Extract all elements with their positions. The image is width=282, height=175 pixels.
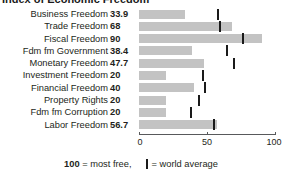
bar-business-freedom bbox=[139, 10, 185, 19]
row-value-fdm-fm-government: 38.4 bbox=[110, 45, 135, 57]
legend-world-average-text: = world average bbox=[152, 159, 218, 169]
row-plot-labor-freedom bbox=[139, 119, 276, 131]
row-value-business-freedom: 33.9 bbox=[110, 8, 135, 20]
world-average-mark-fiscal-freedom bbox=[242, 33, 244, 44]
bar-fdm-fm-corruption bbox=[139, 108, 166, 117]
row-plot-monetary-freedom bbox=[139, 57, 276, 69]
chart-legend: 100 = most free, = world average bbox=[0, 156, 282, 172]
world-average-mark-trade-freedom bbox=[219, 21, 221, 32]
x-axis: 0 50 100 bbox=[139, 134, 276, 152]
legend-most-free-text: = most free, bbox=[80, 159, 132, 169]
table-row: Property Rights 20 bbox=[0, 94, 282, 106]
bar-monetary-freedom bbox=[139, 59, 204, 68]
bar-fdm-fm-government bbox=[139, 46, 192, 55]
row-label-trade-freedom: Trade Freedom bbox=[0, 20, 108, 32]
row-plot-fiscal-freedom bbox=[139, 33, 276, 45]
table-row: Trade Freedom 68 bbox=[0, 20, 282, 32]
table-row: Investment Freedom 20 bbox=[0, 69, 282, 81]
row-value-property-rights: 20 bbox=[110, 94, 135, 106]
row-value-monetary-freedom: 47.7 bbox=[110, 57, 135, 69]
x-axis-label-100: 100 bbox=[266, 137, 281, 148]
row-label-business-freedom: Business Freedom bbox=[0, 8, 108, 20]
x-axis-tick-0 bbox=[139, 132, 140, 136]
bar-labor-freedom bbox=[139, 120, 217, 129]
bar-financial-freedom bbox=[139, 83, 194, 92]
table-row: Fdm fm Government 38.4 bbox=[0, 45, 282, 57]
row-label-property-rights: Property Rights bbox=[0, 94, 108, 106]
row-plot-financial-freedom bbox=[139, 82, 276, 94]
table-row: Fiscal Freedom 90 bbox=[0, 33, 282, 45]
row-plot-trade-freedom bbox=[139, 20, 276, 32]
table-row: Fdm fm Corruption 20 bbox=[0, 106, 282, 118]
x-axis-tick-100 bbox=[275, 132, 276, 136]
table-row: Labor Freedom 56.7 bbox=[0, 119, 282, 131]
world-average-mark-business-freedom bbox=[217, 9, 219, 20]
page-title: Index of Economic Freedom bbox=[0, 0, 282, 5]
chart-title-cropped: Index of Economic Freedom bbox=[0, 0, 282, 6]
bar-property-rights bbox=[139, 96, 166, 105]
world-average-mark-investment-freedom bbox=[202, 70, 204, 81]
row-value-financial-freedom: 40 bbox=[110, 82, 135, 94]
row-label-financial-freedom: Financial Freedom bbox=[0, 82, 108, 94]
row-plot-business-freedom bbox=[139, 8, 276, 20]
table-row: Monetary Freedom 47.7 bbox=[0, 57, 282, 69]
row-label-investment-freedom: Investment Freedom bbox=[0, 69, 108, 81]
row-value-fdm-fm-corruption: 20 bbox=[110, 106, 135, 118]
bar-investment-freedom bbox=[139, 71, 166, 80]
row-plot-fdm-fm-government bbox=[139, 45, 276, 57]
table-row: Business Freedom 33.9 bbox=[0, 8, 282, 20]
row-label-fdm-fm-government: Fdm fm Government bbox=[0, 45, 108, 57]
table-row: Financial Freedom 40 bbox=[0, 82, 282, 94]
row-plot-property-rights bbox=[139, 94, 276, 106]
economic-freedom-chart: Index of Economic Freedom Business Freed… bbox=[0, 0, 282, 175]
bar-rows: Business Freedom 33.9 Trade Freedom 68 F… bbox=[0, 8, 282, 131]
legend-max-value: 100 bbox=[64, 159, 80, 169]
row-label-fdm-fm-corruption: Fdm fm Corruption bbox=[0, 106, 108, 118]
row-plot-investment-freedom bbox=[139, 69, 276, 81]
row-plot-fdm-fm-corruption bbox=[139, 106, 276, 118]
row-label-labor-freedom: Labor Freedom bbox=[0, 119, 108, 131]
world-average-mark-labor-freedom bbox=[213, 119, 215, 130]
row-label-monetary-freedom: Monetary Freedom bbox=[0, 57, 108, 69]
world-average-mark-monetary-freedom bbox=[233, 58, 235, 69]
row-value-labor-freedom: 56.7 bbox=[110, 119, 135, 131]
row-value-fiscal-freedom: 90 bbox=[110, 33, 135, 45]
x-axis-label-0: 0 bbox=[137, 137, 142, 148]
world-average-mark-fdm-fm-government bbox=[226, 45, 228, 56]
world-average-mark-fdm-fm-corruption bbox=[190, 107, 192, 118]
row-value-trade-freedom: 68 bbox=[110, 20, 135, 32]
world-average-mark-financial-freedom bbox=[204, 82, 206, 93]
x-axis-label-50: 50 bbox=[202, 137, 212, 148]
world-average-mark-icon bbox=[146, 159, 148, 169]
row-value-investment-freedom: 20 bbox=[110, 69, 135, 81]
row-label-fiscal-freedom: Fiscal Freedom bbox=[0, 33, 108, 45]
x-axis-tick-50 bbox=[207, 132, 208, 136]
world-average-mark-property-rights bbox=[198, 95, 200, 106]
